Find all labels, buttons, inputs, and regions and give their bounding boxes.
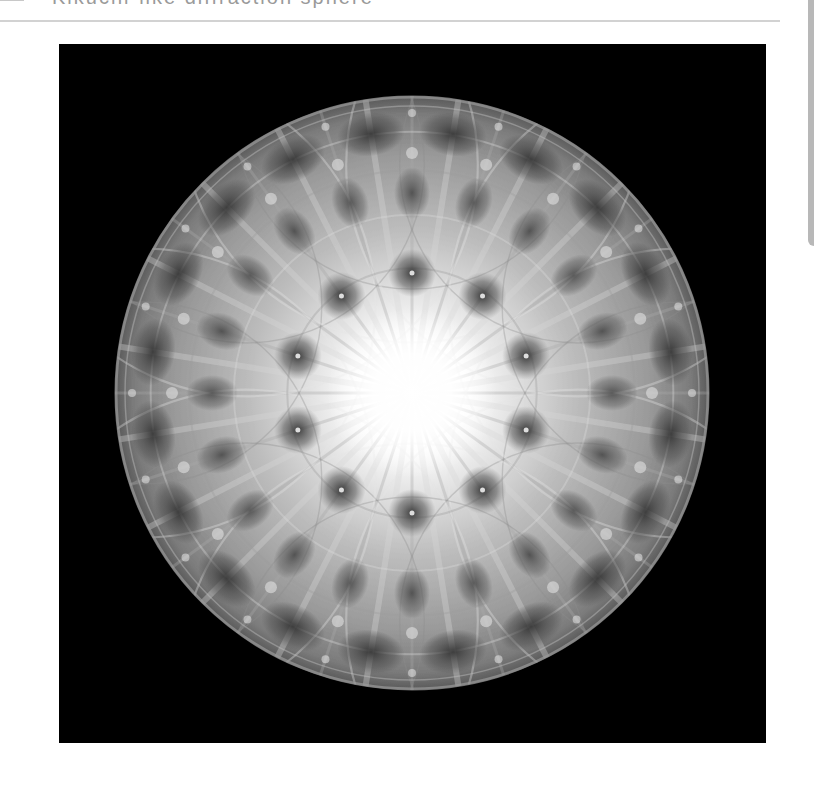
cropped-heading: Kikuchi-like diffraction sphere [0,0,780,8]
diffraction-sphere-image [59,44,766,743]
header-divider [0,20,780,22]
heading-marker-icon [0,0,24,1]
side-panel-edge [808,0,814,246]
page: Kikuchi-like diffraction sphere [0,0,814,794]
diffraction-figure [59,44,766,743]
heading-text: Kikuchi-like diffraction sphere [52,0,374,8]
